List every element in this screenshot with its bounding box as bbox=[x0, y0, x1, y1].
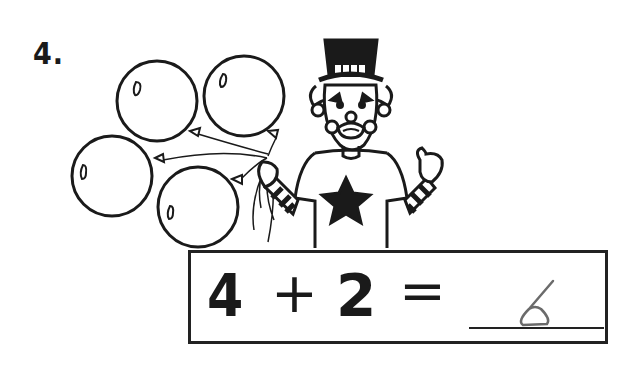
operand-b: 2 bbox=[336, 267, 376, 325]
balloon-icon bbox=[72, 136, 164, 216]
balloon-icon bbox=[158, 167, 242, 247]
clown-icon bbox=[259, 40, 443, 248]
balloon-icon bbox=[204, 56, 284, 138]
answer-line bbox=[469, 327, 604, 329]
equation-box: 4 + 2 = bbox=[188, 250, 608, 344]
plus-operator: + bbox=[271, 265, 318, 321]
operand-a: 4 bbox=[207, 267, 243, 325]
handwritten-answer-six bbox=[509, 279, 569, 329]
balloon-icon bbox=[117, 61, 200, 141]
equals-sign: = bbox=[399, 263, 446, 319]
